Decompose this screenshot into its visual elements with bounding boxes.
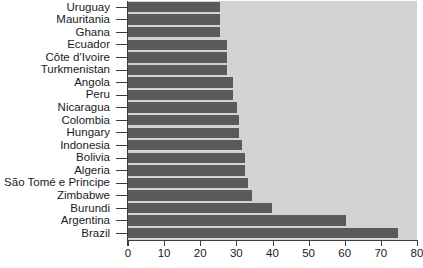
x-axis-tick-mark <box>200 241 201 246</box>
bar <box>128 165 245 175</box>
x-axis-tick-mark <box>309 241 310 246</box>
bar-row <box>128 227 417 240</box>
bar-row <box>128 14 417 27</box>
bar-row <box>128 127 417 140</box>
x-axis-tick-label: 10 <box>158 248 171 260</box>
bar-series <box>128 1 417 240</box>
category-label-row: São Tomé e Principe <box>0 177 112 190</box>
bar-row <box>128 164 417 177</box>
category-label: Colombia <box>61 115 110 127</box>
bar-row <box>128 215 417 228</box>
x-axis-tick-mark <box>273 241 274 246</box>
bar-row <box>128 89 417 102</box>
category-axis-labels: UruguayMauritaniaGhanaEcuadorCôte d’Ivoi… <box>0 1 112 240</box>
x-axis-tick-label: 30 <box>230 248 243 260</box>
category-label: Bolivia <box>76 152 110 164</box>
bar-row <box>128 76 417 89</box>
category-label-row: Brazil <box>0 227 112 240</box>
x-axis-tick-label: 60 <box>338 248 351 260</box>
bar <box>128 65 227 75</box>
bar <box>128 77 233 87</box>
bar <box>128 14 220 24</box>
bar <box>128 115 239 125</box>
x-axis-tick-mark <box>164 241 165 246</box>
bar-row <box>128 202 417 215</box>
bar-row <box>128 26 417 39</box>
category-label-row: Burundi <box>0 202 112 215</box>
x-axis-tick-mark <box>417 241 418 246</box>
x-axis-tick-label: 20 <box>194 248 207 260</box>
category-label: Nicaragua <box>58 102 110 114</box>
category-label: Indonesia <box>60 140 110 152</box>
category-label-row: Uruguay <box>0 1 112 14</box>
bar-row <box>128 39 417 52</box>
bar <box>128 52 227 62</box>
x-axis-tick-label: 50 <box>302 248 315 260</box>
x-axis-tick-mark <box>345 241 346 246</box>
x-axis-tick-mark <box>236 241 237 246</box>
category-label-row: Côte d’Ivoire <box>0 51 112 64</box>
category-label-row: Argentina <box>0 215 112 228</box>
bar <box>128 140 242 150</box>
bar <box>128 153 245 163</box>
category-label: Mauritania <box>56 14 110 26</box>
bar <box>128 2 220 12</box>
x-axis-tick-mark <box>381 241 382 246</box>
bar-row <box>128 139 417 152</box>
bar <box>128 27 220 37</box>
category-label-row: Ecuador <box>0 39 112 52</box>
bar <box>128 40 227 50</box>
bar <box>128 190 252 200</box>
category-label: Turkmenistan <box>41 64 110 76</box>
category-label-row: Peru <box>0 89 112 102</box>
category-label: Ghana <box>75 27 110 39</box>
bar <box>128 178 248 188</box>
category-label-row: Hungary <box>0 127 112 140</box>
category-label: Peru <box>86 89 110 101</box>
category-label: Algeria <box>74 165 110 177</box>
bar-row <box>128 64 417 77</box>
x-axis-tick-label: 80 <box>411 248 423 260</box>
category-label: Hungary <box>67 127 110 139</box>
category-label: Brazil <box>81 228 110 240</box>
category-label-row: Nicaragua <box>0 102 112 115</box>
category-label: Angola <box>74 77 110 89</box>
x-axis-tick-label: 70 <box>374 248 387 260</box>
category-label-row: Zimbabwe <box>0 189 112 202</box>
bar <box>128 102 237 112</box>
category-label: Uruguay <box>67 2 110 14</box>
bar <box>128 228 398 238</box>
category-label: Ecuador <box>67 39 110 51</box>
category-label: Argentina <box>61 215 110 227</box>
bar <box>128 215 346 225</box>
category-label-row: Bolivia <box>0 152 112 165</box>
bar-row <box>128 102 417 115</box>
bar-row <box>128 51 417 64</box>
bar-row <box>128 189 417 202</box>
bar <box>128 203 272 213</box>
category-label-row: Colombia <box>0 114 112 127</box>
category-label: Burundi <box>70 203 110 215</box>
category-label-row: Algeria <box>0 164 112 177</box>
x-axis-tick-label: 40 <box>266 248 279 260</box>
bar <box>128 128 239 138</box>
category-label: Côte d’Ivoire <box>45 52 110 64</box>
x-axis-tick-mark <box>128 241 129 246</box>
bar-row <box>128 177 417 190</box>
bar-row <box>128 114 417 127</box>
category-label: São Tomé e Principe <box>4 177 110 189</box>
bar-row <box>128 1 417 14</box>
bar <box>128 90 233 100</box>
category-label-row: Mauritania <box>0 14 112 27</box>
bar-row <box>128 152 417 165</box>
category-label: Zimbabwe <box>57 190 110 202</box>
category-label-row: Ghana <box>0 26 112 39</box>
category-label-row: Turkmenistan <box>0 64 112 77</box>
x-axis-tick-label: 0 <box>125 248 131 260</box>
category-label-row: Angola <box>0 76 112 89</box>
category-label-row: Indonesia <box>0 139 112 152</box>
